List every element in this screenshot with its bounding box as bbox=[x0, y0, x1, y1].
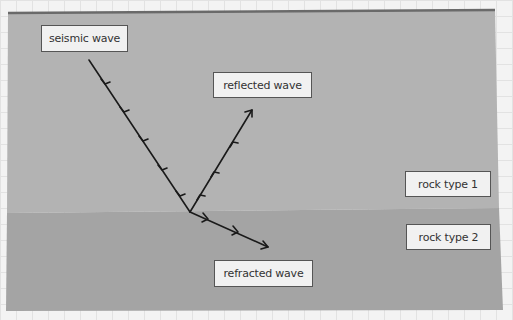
seismic-wave-label: seismic wave bbox=[41, 25, 128, 52]
rock-type-2-label: rock type 2 bbox=[406, 224, 491, 250]
refracted-wave-label: refracted wave bbox=[214, 260, 313, 287]
rock-type-1-label: rock type 1 bbox=[405, 171, 491, 197]
reflected-wave-label: reflected wave bbox=[213, 72, 312, 98]
